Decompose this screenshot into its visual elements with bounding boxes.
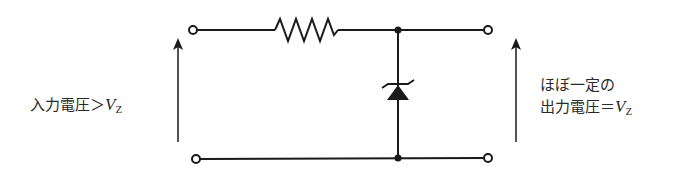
input-voltage-label: 入力電圧＞VZ	[30, 94, 122, 120]
vz-subscript: Z	[115, 103, 122, 115]
vz-symbol: V	[615, 97, 625, 116]
bottom-wire	[200, 158, 484, 159]
output-label-line2: 出力電圧＝VZ	[540, 96, 632, 122]
resistor	[275, 19, 338, 41]
terminal-output-bottom	[484, 154, 492, 162]
terminal-input-bottom	[192, 155, 200, 163]
zener-diode-triangle	[387, 85, 409, 100]
vz-symbol: V	[105, 95, 115, 114]
input-voltage-text: 入力電圧＞	[30, 96, 105, 114]
output-voltage-text: 出力電圧＝	[540, 98, 615, 116]
output-label-line1: ほぼ一定の	[540, 74, 632, 96]
vz-subscript: Z	[625, 105, 632, 117]
junction-top	[395, 27, 402, 34]
terminal-output-top	[484, 26, 492, 34]
zener-voltage-symbol: VZ	[615, 97, 632, 116]
zener-voltage-symbol: VZ	[105, 95, 122, 114]
junction-bottom	[395, 155, 402, 162]
output-voltage-label: ほぼ一定の 出力電圧＝VZ	[540, 74, 632, 122]
terminal-input-top	[189, 26, 197, 34]
